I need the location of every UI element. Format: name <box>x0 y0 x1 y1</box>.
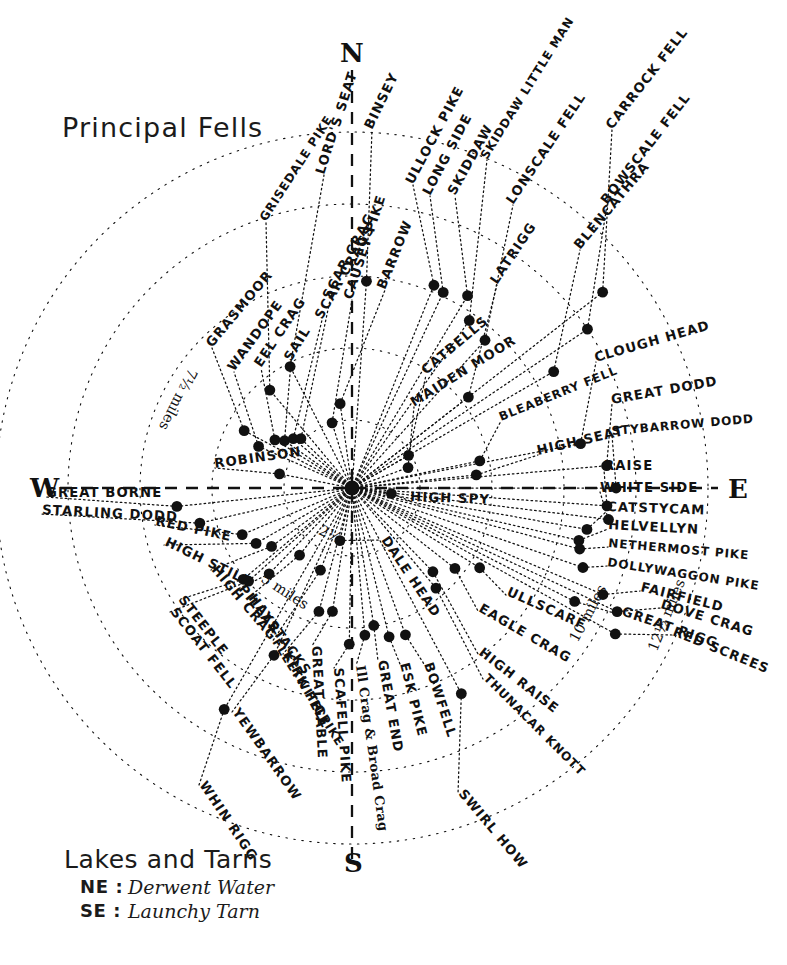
peak-label: GREAT BORNE <box>46 485 162 500</box>
peak-label: WHITE SIDE <box>600 480 698 495</box>
peak-marker <box>315 565 326 576</box>
peak-label: CATSTYCAM <box>607 499 706 517</box>
peak-label: BOWSCALE FELL <box>598 90 694 207</box>
legend-value-ne: Derwent Water <box>127 876 276 898</box>
label-leader <box>603 591 640 595</box>
bearing-ray <box>293 439 352 488</box>
peak-marker <box>427 566 438 577</box>
peak-label: BLENCATHRA <box>571 159 652 252</box>
peak-marker <box>266 541 277 552</box>
bearing-ray <box>352 372 554 488</box>
peak-marker <box>335 398 346 409</box>
peak-label: RED SCREES <box>671 624 772 676</box>
peak-marker <box>403 462 414 473</box>
label-leader <box>199 709 224 785</box>
peak-label: RAISE <box>604 458 653 473</box>
label-leader <box>554 250 580 372</box>
peak-marker <box>359 630 370 641</box>
label-leader <box>301 300 330 439</box>
legend-key-ne: NE : <box>80 876 123 897</box>
peak-marker <box>569 596 580 607</box>
cardinal-east: E <box>728 474 748 504</box>
bearing-ray <box>352 488 365 635</box>
peak-marker <box>327 417 338 428</box>
peak-marker <box>480 335 491 346</box>
peak-marker <box>456 688 467 699</box>
label-leader <box>261 368 275 440</box>
peak-marker <box>463 392 474 403</box>
peak-marker <box>327 606 338 617</box>
peak-label: HIGH SPY <box>410 489 490 507</box>
peak-marker <box>403 450 414 461</box>
peak-marker <box>582 324 593 335</box>
peak-marker <box>429 280 440 291</box>
peak-marker <box>251 538 262 549</box>
peak-marker <box>474 562 485 573</box>
peak-marker <box>462 290 473 301</box>
label-leader <box>455 568 478 611</box>
legend-value-se: Launchy Tarn <box>127 900 260 922</box>
peak-marker <box>368 620 379 631</box>
legend-heading: Lakes and Tarns <box>64 845 272 874</box>
peak-marker <box>400 629 411 640</box>
bearing-ray <box>352 285 434 488</box>
peak-marker <box>296 433 307 444</box>
label-leader <box>480 421 501 461</box>
peak-marker <box>578 562 589 573</box>
peak-marker <box>471 470 482 481</box>
label-leader <box>455 196 468 296</box>
bearing-ray <box>280 474 352 488</box>
label-leader <box>340 540 381 541</box>
peak-marker <box>548 366 559 377</box>
label-leader <box>340 290 385 404</box>
peak-label: YEWBARROW <box>229 704 305 803</box>
bearing-ray <box>301 439 352 488</box>
peak-marker <box>270 434 281 445</box>
peak-marker <box>386 488 397 499</box>
peak-label: HELVELLYN <box>608 517 700 537</box>
peak-marker <box>450 563 461 574</box>
viewpoint-hub <box>345 481 360 496</box>
peak-labels: BINSEYULLOCK PIKELONG SIDESKIDDAWSKIDDAW… <box>42 14 772 871</box>
peak-marker <box>219 704 230 715</box>
peak-label: GREAT DODD <box>610 373 719 406</box>
bearing-ray <box>177 488 352 506</box>
panorama-svg: BINSEYULLOCK PIKELONG SIDESKIDDAWSKIDDAW… <box>0 0 787 965</box>
cardinal-south: S <box>344 848 363 878</box>
peak-marker <box>237 529 248 540</box>
peak-marker <box>314 606 325 617</box>
peak-label: HIGH STILE <box>163 534 254 589</box>
bearing-ray <box>352 397 468 488</box>
peak-marker <box>239 425 250 436</box>
legend-key-se: SE : <box>80 900 121 921</box>
peak-label: CLOUGH HEAD <box>593 318 712 365</box>
label-leader <box>285 362 291 441</box>
peak-marker <box>574 544 585 555</box>
legend: Lakes and Tarns NE : Derwent Water SE : … <box>64 845 276 922</box>
peak-label: SKIDDAW LITTLE MAN <box>478 14 577 161</box>
peak-marker <box>344 639 355 650</box>
ring-distance-label: 7½ miles <box>156 366 201 433</box>
peak-marker <box>438 287 449 298</box>
peak-label: HIGH SEAT <box>535 423 625 458</box>
fells-panorama-figure: BINSEYULLOCK PIKELONG SIDESKIDDAWSKIDDAW… <box>0 0 787 965</box>
peak-marker <box>610 629 621 640</box>
peak-marker <box>384 631 395 642</box>
cardinal-north: N <box>340 38 364 68</box>
label-leader <box>430 196 443 292</box>
label-leader <box>436 588 483 679</box>
peak-marker <box>597 287 608 298</box>
peak-marker <box>361 276 372 287</box>
peak-label: STYBARROW DODD <box>611 412 754 438</box>
bearing-ray <box>352 329 587 488</box>
peak-marker <box>274 469 285 480</box>
peak-marker <box>474 455 485 466</box>
peak-marker <box>582 524 593 535</box>
peak-marker <box>431 583 442 594</box>
peak-label: SWIRL HOW <box>456 786 531 871</box>
page-title: Principal Fells <box>62 112 263 143</box>
peak-label: BINSEY <box>361 70 401 131</box>
cardinal-west: W <box>29 473 60 503</box>
label-leader <box>458 694 461 794</box>
peak-marker <box>294 550 305 561</box>
